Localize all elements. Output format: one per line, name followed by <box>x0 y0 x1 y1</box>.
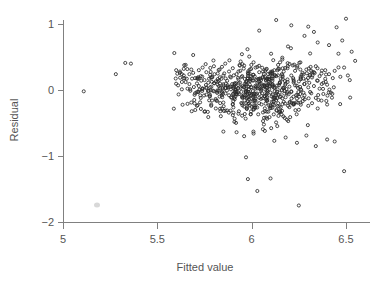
y-tick-label-2: −1 <box>41 150 54 162</box>
y-tick-label-3: −2 <box>41 216 54 228</box>
y-tick-label-1: 0 <box>48 84 54 96</box>
scatter-plot-canvas: 10−1−2 55.566.5 Residual Fitted value <box>0 0 377 282</box>
plot-background <box>0 0 377 282</box>
y-tick-label-0: 1 <box>48 18 54 30</box>
residual-plot-figure: 10−1−2 55.566.5 Residual Fitted value <box>0 0 377 282</box>
y-axis-title: Residual <box>8 99 20 142</box>
x-tick-label-1: 5.5 <box>150 233 165 245</box>
x-tick-label-2: 6 <box>249 233 255 245</box>
x-axis-title: Fitted value <box>177 261 234 273</box>
x-tick-label-3: 6.5 <box>338 233 353 245</box>
scan-artifact-smudge <box>94 203 100 208</box>
x-tick-label-0: 5 <box>60 233 66 245</box>
